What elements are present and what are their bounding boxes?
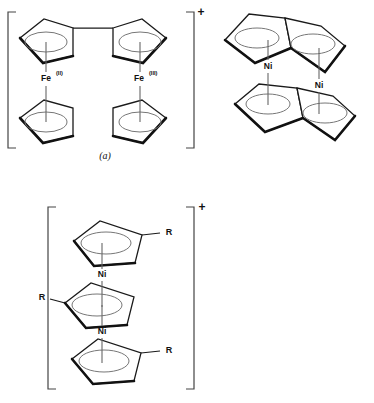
chemical-structure-figure: + Fe (II) Fe (III) bbox=[0, 0, 374, 403]
structure-a-drawing: + Fe (II) Fe (III) bbox=[0, 0, 215, 175]
bond-r-bottom bbox=[141, 351, 160, 353]
substituent-label-r-top: R bbox=[166, 227, 173, 237]
metal-label-ni-b-1: Ni bbox=[264, 61, 273, 71]
cp-ring-b-bottom-left bbox=[235, 84, 303, 132]
bond-r-middle bbox=[50, 299, 65, 303]
charge-plus-a: + bbox=[197, 5, 204, 19]
metal-label-ni-c-2: Ni bbox=[98, 326, 107, 336]
bracket-right-a bbox=[186, 12, 194, 148]
substituent-label-r-bottom: R bbox=[166, 345, 173, 355]
cp-ring-c-top bbox=[74, 221, 142, 266]
structure-c-triple-decker-nickel-cation: + R R R Ni bbox=[38, 193, 238, 403]
bracket-right-c bbox=[186, 207, 194, 389]
bracket-left-a bbox=[8, 12, 16, 148]
structure-a-biferrocene-cation: + Fe (II) Fe (III) bbox=[0, 0, 215, 175]
metal-oxidation-fe-1: (II) bbox=[56, 70, 63, 76]
caption-a: (a) bbox=[85, 150, 125, 161]
metal-oxidation-fe-2: (III) bbox=[149, 70, 158, 76]
metal-label-fe-2: Fe bbox=[134, 73, 144, 83]
cp-ring-c-middle bbox=[65, 283, 134, 328]
cp-ring-c-bottom bbox=[72, 339, 141, 384]
bond-r-top bbox=[142, 233, 160, 235]
charge-plus-c: + bbox=[198, 200, 205, 214]
metal-label-fe-1: Fe bbox=[41, 73, 51, 83]
cp-ring-b-bottom-right bbox=[297, 88, 355, 140]
structure-b-drawing: Ni Ni bbox=[213, 0, 374, 175]
structure-b-nickel-pentalene-complex: Ni Ni (b) bbox=[213, 0, 374, 175]
bracket-left-c bbox=[48, 207, 56, 389]
metal-label-ni-b-2: Ni bbox=[315, 80, 324, 90]
metal-label-ni-c-1: Ni bbox=[98, 269, 107, 279]
substituent-label-r-middle: R bbox=[39, 292, 46, 302]
structure-c-drawing: + R R R Ni bbox=[38, 193, 238, 403]
